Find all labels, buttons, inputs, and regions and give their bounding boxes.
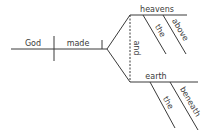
conjunction-word: and (132, 40, 141, 55)
object-2-word: earth (145, 72, 166, 81)
sentence-diagram: God made and heavens the above earth the… (0, 0, 205, 134)
object-1-modifier-2: above (170, 17, 190, 43)
object-2-modifier-1: the (161, 95, 175, 111)
object-1-word: heavens (140, 5, 174, 14)
compound-branch-top (107, 15, 130, 49)
subject-word: God (25, 39, 41, 48)
verb-word: made (67, 39, 90, 48)
compound-branch-bottom (107, 49, 130, 82)
